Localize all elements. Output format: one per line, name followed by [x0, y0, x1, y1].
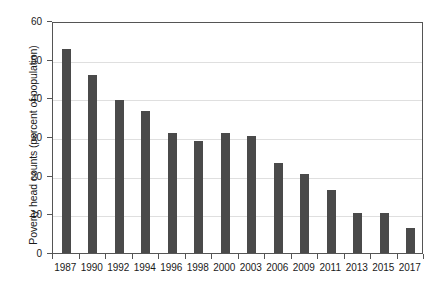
x-tick-label: 1994 [130, 261, 160, 275]
x-tick-mark [52, 254, 53, 259]
bar [221, 133, 230, 253]
y-axis-ticks: 0102030405060 [0, 0, 52, 290]
x-tick-label: 1996 [156, 261, 186, 275]
bar [141, 111, 150, 253]
x-tick-label: 1998 [183, 261, 213, 275]
x-tick-mark [211, 254, 212, 259]
plot-area [52, 22, 423, 254]
x-tick-label: 1990 [77, 261, 107, 275]
x-tick-mark [238, 254, 239, 259]
y-tick-label: 0 [36, 248, 42, 260]
y-tick-label: 60 [31, 16, 42, 28]
x-tick-mark [79, 254, 80, 259]
x-tick-mark [423, 254, 424, 259]
y-tick: 0 [0, 248, 52, 260]
x-tick-mark [132, 254, 133, 259]
y-tick-label: 30 [31, 132, 42, 144]
x-tick-label: 2017 [395, 261, 425, 275]
bar [115, 100, 124, 254]
x-tick-mark [291, 254, 292, 259]
y-tick: 20 [0, 171, 52, 183]
y-tick: 40 [0, 93, 52, 105]
y-tick-label: 10 [31, 209, 42, 221]
x-tick-mark [344, 254, 345, 259]
x-tick-label: 2013 [342, 261, 372, 275]
y-tick: 30 [0, 132, 52, 144]
bar [300, 174, 309, 253]
bar-chart-figure: Poverty head counts (percent of populati… [0, 0, 435, 290]
x-tick-label: 1987 [50, 261, 80, 275]
x-axis-ticks [52, 254, 423, 260]
x-axis-labels: 1987199019921994199619982000200320062009… [52, 261, 423, 277]
x-tick-mark [185, 254, 186, 259]
y-tick: 60 [0, 16, 52, 28]
bar [88, 75, 97, 253]
x-tick-mark [317, 254, 318, 259]
x-tick-mark [158, 254, 159, 259]
x-tick-mark [264, 254, 265, 259]
x-tick-mark [397, 254, 398, 259]
bar [406, 228, 415, 253]
bar [274, 163, 283, 253]
x-tick-label: 2006 [262, 261, 292, 275]
bar [62, 49, 71, 253]
x-tick-label: 2011 [315, 261, 345, 275]
y-tick-label: 20 [31, 171, 42, 183]
y-tick-label: 40 [31, 93, 42, 105]
bars-layer [53, 23, 422, 253]
x-tick-mark [370, 254, 371, 259]
x-tick-label: 1992 [103, 261, 133, 275]
x-tick-label: 2000 [209, 261, 239, 275]
bar [380, 213, 389, 253]
bar [194, 141, 203, 253]
y-tick: 10 [0, 209, 52, 221]
x-tick-label: 2015 [368, 261, 398, 275]
bar [353, 213, 362, 253]
bar [168, 133, 177, 253]
bar [247, 136, 256, 253]
y-tick: 50 [0, 55, 52, 67]
x-tick-label: 2009 [289, 261, 319, 275]
x-tick-label: 2003 [236, 261, 266, 275]
bar [327, 190, 336, 253]
x-tick-mark [105, 254, 106, 259]
y-tick-label: 50 [31, 55, 42, 67]
